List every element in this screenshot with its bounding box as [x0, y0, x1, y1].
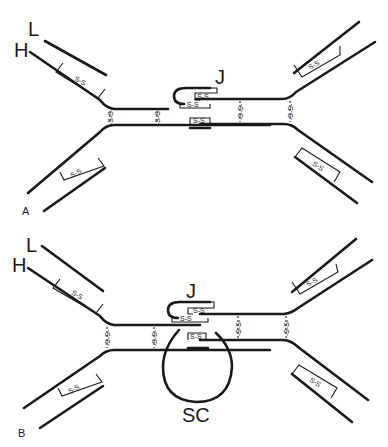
disulfide-label: S-S: [190, 333, 202, 340]
svg-text:-S-S-: -S-S-: [107, 108, 114, 125]
lower-right-fab: S-S: [200, 340, 368, 422]
panel-a: L H J A S-S S-S S-S S: [14, 18, 375, 217]
disulfide-label: S-S: [69, 167, 83, 179]
disulfide-label: S-S: [193, 307, 205, 314]
svg-text:-S-S-: -S-S-: [151, 329, 158, 346]
heavy-chain-label: H: [12, 254, 26, 276]
disulfide-label: S-S: [305, 276, 319, 288]
j-chain: S-S S-S S-S: [174, 88, 217, 128]
heavy-chain-label: H: [14, 39, 28, 61]
inter-heavy-disulfides: -S-S- -S-S- -S-S- -S-S-: [104, 316, 290, 348]
svg-text:-S-S-: -S-S-: [235, 319, 242, 336]
svg-text:-S-S-: -S-S-: [287, 103, 294, 120]
svg-text:-S-S-: -S-S-: [237, 103, 244, 120]
disulfide-label: S-S: [187, 101, 199, 108]
secretory-component: [163, 330, 232, 402]
upper-right-fab: S-S: [200, 239, 372, 314]
svg-text:-S-S-: -S-S-: [283, 319, 290, 336]
panel-label-b: B: [18, 427, 25, 439]
lower-left-fab: S-S: [24, 350, 270, 428]
disulfide-label: S-S: [180, 315, 192, 322]
upper-left-fab: S-S: [28, 246, 200, 325]
j-chain-label: J: [215, 66, 225, 88]
svg-text:-S-S-: -S-S-: [104, 329, 111, 346]
igA-dimer-diagram: L H J A S-S S-S S-S S: [0, 0, 388, 447]
svg-text:-S-S-: -S-S-: [154, 108, 161, 125]
disulfide-label: S-S: [67, 383, 81, 395]
lower-right-fab: S-S: [200, 124, 372, 203]
light-chain-label: L: [26, 234, 37, 256]
panel-b: L H J SC B S-S S-S S-S: [12, 234, 372, 439]
secretory-component-label: SC: [182, 404, 210, 426]
panel-label-a: A: [22, 205, 30, 217]
light-chain-label: L: [28, 18, 39, 40]
disulfide-label: S-S: [193, 117, 205, 124]
upper-left-fab: S-S: [30, 41, 168, 109]
disulfide-label: S-S: [197, 93, 209, 100]
j-chain-label: J: [186, 280, 196, 302]
lower-left-fab: S-S: [28, 125, 270, 211]
